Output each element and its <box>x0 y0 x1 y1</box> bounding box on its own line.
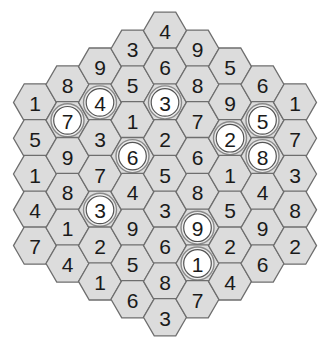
cell-digit: 3 <box>94 199 106 222</box>
cell-digit: 7 <box>289 128 301 151</box>
cell-digit: 3 <box>289 164 301 187</box>
cell-digit: 1 <box>127 110 139 133</box>
cell-digit: 8 <box>62 74 74 97</box>
cell-digit: 9 <box>62 146 74 169</box>
cell-digit: 5 <box>127 253 139 276</box>
cell-digit: 6 <box>257 74 269 97</box>
cell-digit: 2 <box>159 128 171 151</box>
cell-digit: 6 <box>159 235 171 258</box>
cell-digit: 2 <box>224 128 236 151</box>
cell-digit: 9 <box>94 56 106 79</box>
cell-digit: 2 <box>94 235 106 258</box>
cell-digit: 8 <box>62 181 74 204</box>
cell-digit: 7 <box>192 110 204 133</box>
cell-digit: 7 <box>29 235 41 258</box>
cell-digit: 5 <box>224 56 236 79</box>
cell-digit: 1 <box>29 92 41 115</box>
cell-digit: 5 <box>159 164 171 187</box>
cell-digit: 3 <box>94 128 106 151</box>
cell-digit: 7 <box>62 110 74 133</box>
cell-digit: 3 <box>127 38 139 61</box>
cell-digit: 4 <box>29 199 41 222</box>
cell-digit: 1 <box>94 271 106 294</box>
cell-digit: 4 <box>159 20 171 43</box>
cell-digit: 4 <box>224 271 236 294</box>
cell-digit: 3 <box>159 199 171 222</box>
cell-digit: 4 <box>94 92 106 115</box>
cell-digit: 6 <box>127 146 139 169</box>
cell-digit: 1 <box>224 164 236 187</box>
cell-digit: 6 <box>127 289 139 312</box>
cell-digit: 8 <box>257 146 269 169</box>
cell-digit: 3 <box>159 307 171 330</box>
cell-digit: 7 <box>94 164 106 187</box>
cell-digit: 2 <box>224 235 236 258</box>
cell-digit: 8 <box>289 199 301 222</box>
cell-digit: 4 <box>127 181 139 204</box>
cell-digit: 1 <box>192 253 204 276</box>
cell-digit: 8 <box>192 181 204 204</box>
cell-digit: 6 <box>257 253 269 276</box>
cell-digit: 4 <box>62 253 74 276</box>
cell-digit: 8 <box>159 271 171 294</box>
cell-digit: 9 <box>257 217 269 240</box>
cell-digit: 8 <box>192 74 204 97</box>
cell-digit: 7 <box>192 289 204 312</box>
cell-digit: 3 <box>159 92 171 115</box>
cell-digit: 5 <box>127 74 139 97</box>
cell-digit: 5 <box>224 199 236 222</box>
cell-digit: 9 <box>127 217 139 240</box>
cell-digit: 2 <box>289 235 301 258</box>
cell-digit: 4 <box>257 181 269 204</box>
cell-digit: 9 <box>224 92 236 115</box>
cell-digit: 1 <box>289 92 301 115</box>
cell-digit: 1 <box>29 164 41 187</box>
cell-digit: 9 <box>192 38 204 61</box>
cell-digit: 9 <box>192 217 204 240</box>
cell-digit: 5 <box>257 110 269 133</box>
cell-digit: 1 <box>62 217 74 240</box>
cell-digit: 5 <box>29 128 41 151</box>
cell-digit: 6 <box>159 56 171 79</box>
hex-puzzle-board: 1514787981494373213516495646325368398768… <box>0 0 332 344</box>
cell-digit: 6 <box>192 146 204 169</box>
